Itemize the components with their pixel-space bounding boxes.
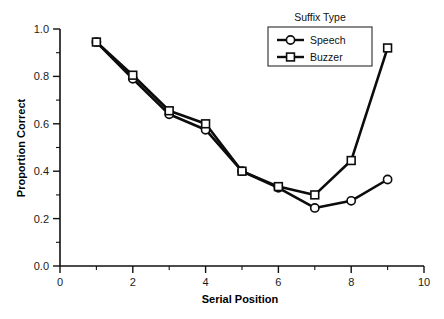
data-point-buzzer-1 (93, 38, 101, 46)
legend-label-buzzer: Buzzer (310, 51, 343, 63)
y-tick-label: 0.6 (34, 118, 49, 130)
legend-marker-circle (286, 36, 294, 44)
x-tick-label: 10 (418, 276, 430, 288)
y-tick-label: 0.2 (34, 213, 49, 225)
data-point-buzzer-3 (165, 107, 173, 115)
x-axis-title: Serial Position (202, 293, 279, 305)
data-point-buzzer-4 (202, 120, 210, 128)
data-point-speech-8 (347, 197, 355, 205)
data-point-buzzer-8 (347, 157, 355, 165)
serial-position-line-chart: 02468100.00.20.40.60.81.0 Suffix TypeSpe… (0, 0, 444, 319)
data-point-buzzer-2 (129, 71, 137, 79)
legend-marker-square (287, 53, 295, 61)
y-tick-label: 1.0 (34, 23, 49, 35)
chart-figure: 02468100.00.20.40.60.81.0 Suffix TypeSpe… (0, 0, 444, 319)
data-point-buzzer-7 (311, 191, 319, 199)
data-point-speech-9 (384, 175, 392, 183)
data-point-buzzer-9 (384, 44, 392, 52)
data-point-speech-7 (311, 204, 319, 212)
x-tick-label: 2 (130, 276, 136, 288)
x-tick-label: 6 (275, 276, 281, 288)
legend: Suffix TypeSpeechBuzzer (268, 11, 372, 66)
y-tick-label: 0.4 (34, 165, 49, 177)
series-line-speech (96, 42, 387, 208)
data-point-buzzer-5 (238, 167, 246, 175)
y-axis-title: Proportion Correct (15, 98, 27, 197)
data-point-buzzer-6 (275, 183, 283, 191)
x-tick-label: 8 (348, 276, 354, 288)
legend-label-speech: Speech (310, 34, 346, 46)
x-tick-label: 4 (203, 276, 209, 288)
legend-title: Suffix Type (294, 11, 346, 23)
y-tick-label: 0.0 (34, 260, 49, 272)
y-tick-label: 0.8 (34, 70, 49, 82)
x-tick-label: 0 (57, 276, 63, 288)
